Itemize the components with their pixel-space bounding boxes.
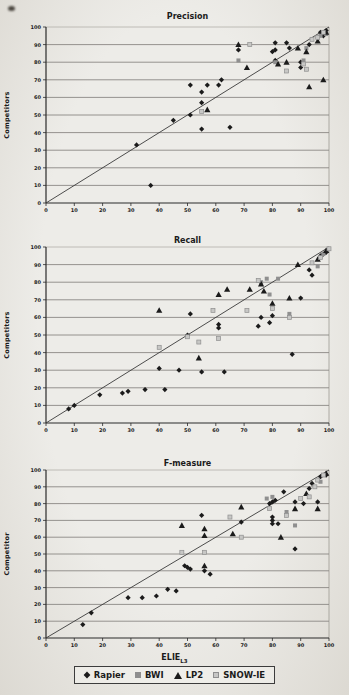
svg-text:90: 90 xyxy=(34,42,41,48)
svg-text:60: 60 xyxy=(34,534,41,540)
series-bwi-points xyxy=(236,32,328,64)
legend-box: Rapier BWI LP2 SNOW-IE xyxy=(74,666,275,684)
svg-text:60: 60 xyxy=(34,314,41,320)
svg-text:40: 40 xyxy=(156,427,163,433)
svg-text:100: 100 xyxy=(31,467,42,473)
bwi-square-icon xyxy=(135,672,141,678)
svg-text:100: 100 xyxy=(324,427,335,433)
svg-text:30: 30 xyxy=(127,427,134,433)
svg-text:90: 90 xyxy=(34,262,41,268)
x-axis-label-main: ELIE xyxy=(161,653,180,662)
series-rapier-points xyxy=(66,250,329,412)
x-axis-label: ELIEL3 xyxy=(0,652,349,663)
svg-text:50: 50 xyxy=(34,112,41,118)
svg-text:40: 40 xyxy=(156,207,163,213)
legend-item-rapier: Rapier xyxy=(84,670,125,680)
recall-plot: 0102030405060708090100010203040506070809… xyxy=(0,233,349,457)
svg-text:70: 70 xyxy=(34,517,41,523)
svg-text:40: 40 xyxy=(156,642,163,648)
svg-text:20: 20 xyxy=(99,427,106,433)
svg-text:70: 70 xyxy=(241,427,248,433)
legend-item-lp2: LP2 xyxy=(174,670,204,680)
svg-text:50: 50 xyxy=(184,207,191,213)
svg-text:10: 10 xyxy=(34,182,41,188)
x-tick-labels: 0102030405060708090100 xyxy=(44,638,334,648)
x-tick-labels: 0102030405060708090100 xyxy=(44,423,334,433)
svg-text:30: 30 xyxy=(127,207,134,213)
svg-text:100: 100 xyxy=(324,642,335,648)
svg-text:20: 20 xyxy=(99,642,106,648)
y-tick-labels: 0102030405060708090100 xyxy=(31,467,46,641)
svg-text:50: 50 xyxy=(184,427,191,433)
y-tick-labels: 0102030405060708090100 xyxy=(31,24,46,206)
svg-text:0: 0 xyxy=(38,420,42,426)
svg-text:40: 40 xyxy=(34,568,41,574)
svg-text:40: 40 xyxy=(34,350,41,356)
svg-text:60: 60 xyxy=(212,642,219,648)
svg-text:50: 50 xyxy=(184,642,191,648)
figure-three-scatter-charts: 0102030405060708090100010203040506070809… xyxy=(0,0,349,684)
y-axis-label: Competitors xyxy=(3,91,11,138)
svg-text:0: 0 xyxy=(44,642,48,648)
svg-text:10: 10 xyxy=(71,642,78,648)
svg-text:70: 70 xyxy=(34,297,41,303)
fmeasure-chart: 0102030405060708090100010203040506070809… xyxy=(0,457,349,651)
precision-chart: 0102030405060708090100010203040506070809… xyxy=(0,5,349,233)
rapier-diamond-icon xyxy=(83,672,90,679)
svg-text:30: 30 xyxy=(34,585,41,591)
legend: Rapier BWI LP2 SNOW-IE xyxy=(0,666,349,684)
f-measure-plot: 0102030405060708090100010203040506070809… xyxy=(0,457,349,651)
svg-text:40: 40 xyxy=(34,130,41,136)
legend-label-snow-ie: SNOW-IE xyxy=(223,670,265,680)
svg-text:80: 80 xyxy=(34,501,41,507)
svg-text:20: 20 xyxy=(34,165,41,171)
svg-text:100: 100 xyxy=(31,244,42,250)
svg-text:0: 0 xyxy=(44,427,48,433)
svg-text:30: 30 xyxy=(34,367,41,373)
svg-text:20: 20 xyxy=(34,601,41,607)
svg-text:0: 0 xyxy=(38,635,42,641)
svg-text:100: 100 xyxy=(324,207,335,213)
svg-text:20: 20 xyxy=(34,385,41,391)
svg-text:0: 0 xyxy=(38,200,42,206)
snow-ie-square-icon xyxy=(213,672,219,678)
legend-label-bwi: BWI xyxy=(145,670,164,680)
series-snow-ie-points xyxy=(200,30,326,113)
svg-text:90: 90 xyxy=(297,207,304,213)
svg-text:50: 50 xyxy=(34,551,41,557)
svg-text:70: 70 xyxy=(34,77,41,83)
svg-text:70: 70 xyxy=(241,642,248,648)
svg-text:90: 90 xyxy=(297,642,304,648)
svg-text:10: 10 xyxy=(34,618,41,624)
y-axis-label: Competitors xyxy=(3,311,11,358)
lp2-triangle-icon xyxy=(174,672,182,679)
svg-text:70: 70 xyxy=(241,207,248,213)
svg-text:60: 60 xyxy=(212,207,219,213)
svg-text:30: 30 xyxy=(34,147,41,153)
series-rapier-points xyxy=(134,28,329,188)
precision-plot: 0102030405060708090100010203040506070809… xyxy=(0,5,349,233)
svg-text:20: 20 xyxy=(99,207,106,213)
svg-text:60: 60 xyxy=(212,427,219,433)
recall-chart: 0102030405060708090100010203040506070809… xyxy=(0,233,349,457)
x-tick-labels: 0102030405060708090100 xyxy=(44,203,334,213)
svg-text:10: 10 xyxy=(34,402,41,408)
svg-text:90: 90 xyxy=(34,484,41,490)
svg-text:80: 80 xyxy=(269,427,276,433)
y-axis-label: Competitor xyxy=(3,532,11,576)
chart-title: Precision xyxy=(167,12,209,21)
svg-text:80: 80 xyxy=(34,279,41,285)
svg-text:80: 80 xyxy=(34,59,41,65)
chart-title: F-measure xyxy=(164,459,212,468)
svg-text:10: 10 xyxy=(71,427,78,433)
svg-text:60: 60 xyxy=(34,94,41,100)
legend-item-snow-ie: SNOW-IE xyxy=(213,670,265,680)
chart-title: Recall xyxy=(174,236,201,245)
svg-text:90: 90 xyxy=(297,427,304,433)
y-tick-labels: 0102030405060708090100 xyxy=(31,244,46,426)
svg-text:10: 10 xyxy=(71,207,78,213)
x-axis-label-subscript: L3 xyxy=(180,658,187,664)
svg-text:30: 30 xyxy=(127,642,134,648)
svg-text:50: 50 xyxy=(34,332,41,338)
svg-text:100: 100 xyxy=(31,24,42,30)
